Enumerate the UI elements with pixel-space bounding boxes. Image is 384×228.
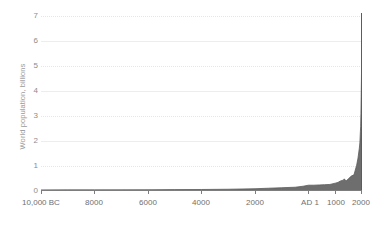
y-tick-label: 4 [22, 87, 38, 95]
x-tick-label: 2000 [246, 198, 264, 207]
y-tick-label: 3 [22, 112, 38, 120]
x-tick-mark [201, 190, 202, 194]
y-tick-label: 7 [22, 12, 38, 20]
x-tick-label: 10,000 BC [22, 198, 60, 207]
x-tick-mark [308, 190, 309, 194]
x-tick-label: 6000 [139, 198, 157, 207]
y-tick-label: 2 [22, 137, 38, 145]
y-tick-label: 0 [22, 187, 38, 195]
right-spine [361, 13, 362, 190]
y-tick-label: 6 [22, 37, 38, 45]
x-tick-label: 1000 [327, 198, 345, 207]
population-area-series [41, 13, 362, 190]
x-tick-label: 2000 [352, 198, 370, 207]
x-tick-mark [94, 190, 95, 194]
y-tick-label: 5 [22, 62, 38, 70]
x-tick-label: AD 1 [301, 198, 319, 207]
x-tick-mark [335, 190, 336, 194]
x-tick-mark [255, 190, 256, 194]
x-tick-mark [148, 190, 149, 194]
x-tick-label: 4000 [192, 198, 210, 207]
x-tick-mark [361, 190, 362, 194]
y-axis-tick-labels: 7 6 5 4 3 2 1 0 [18, 0, 38, 228]
y-tick-label: 1 [22, 162, 38, 170]
world-population-chart: World population, billions 7 6 5 4 3 2 1… [0, 0, 384, 228]
x-tick-mark [41, 190, 42, 194]
x-tick-label: 8000 [85, 198, 103, 207]
